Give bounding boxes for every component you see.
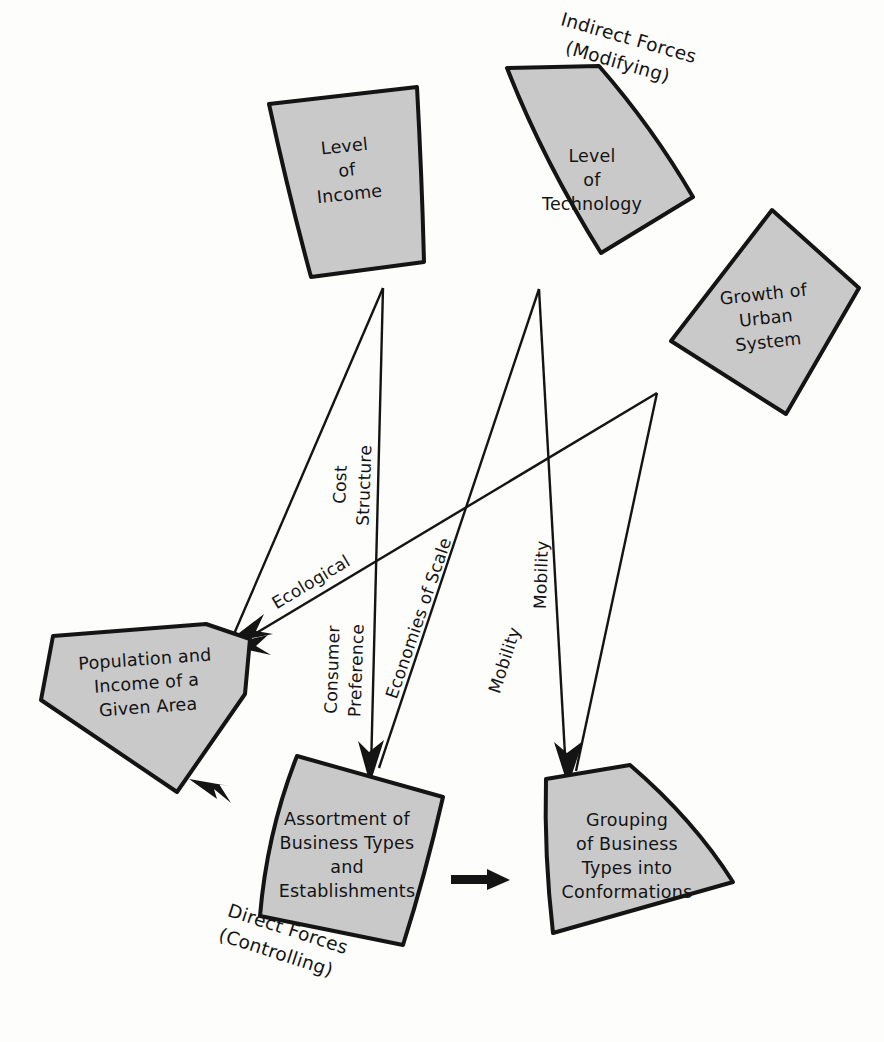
edge-label-line: Preference	[344, 624, 367, 718]
label-line: Establishments	[279, 881, 416, 901]
label-line: Technology	[541, 194, 642, 214]
edge-label-line: Structure	[353, 445, 376, 527]
node-labels-group: Level of Income Level of Technology Grow…	[78, 133, 814, 902]
edge-label-line: Mobility	[530, 540, 552, 609]
label-line: Assortment of	[284, 809, 410, 829]
label-line: Level	[568, 146, 615, 166]
flow-line-income-to-assortment	[371, 288, 383, 770]
edge-label-economies-of-scale: Economies of Scale	[381, 535, 455, 701]
edge-label-mobility-lower: Mobility	[484, 625, 524, 696]
flow-line-urban-to-population	[238, 393, 657, 644]
edge-label-line: Economies of Scale	[381, 535, 455, 701]
label-line: Grouping	[586, 810, 668, 830]
flow-line-technology-to-assortment	[379, 289, 539, 768]
label-line: and	[330, 857, 364, 877]
edge-label-cost-structure: Cost Structure	[329, 444, 376, 526]
edge-label-consumer-preference: Consumer Preference	[320, 623, 367, 718]
edge-label-line: Mobility	[484, 625, 524, 696]
arrow-population-to-assortment	[189, 779, 231, 803]
label-line: Types into	[581, 858, 672, 878]
node-shapes-group	[41, 66, 859, 945]
label-line: of	[337, 159, 357, 181]
label-line: Business Types	[280, 833, 415, 853]
label-line: of	[583, 170, 601, 190]
label-line: Conformations	[562, 882, 693, 902]
flow-line-technology-to-grouping	[539, 289, 566, 773]
arrow-assortment-to-grouping	[451, 869, 510, 890]
edge-label-line: Cost	[329, 465, 350, 504]
node-level-of-income[interactable]	[269, 87, 424, 277]
label-line: of Business	[576, 834, 678, 854]
forces-diagram-svg: Level of Income Level of Technology Grow…	[0, 0, 884, 1042]
edge-label-mobility-upper: Mobility	[530, 540, 552, 609]
label-population-and-income: Population and Income of a Given Area	[78, 644, 216, 721]
flow-line-urban-to-grouping	[576, 393, 657, 771]
edge-label-line: Consumer	[320, 625, 343, 714]
diagram-canvas: Level of Income Level of Technology Grow…	[0, 0, 884, 1042]
